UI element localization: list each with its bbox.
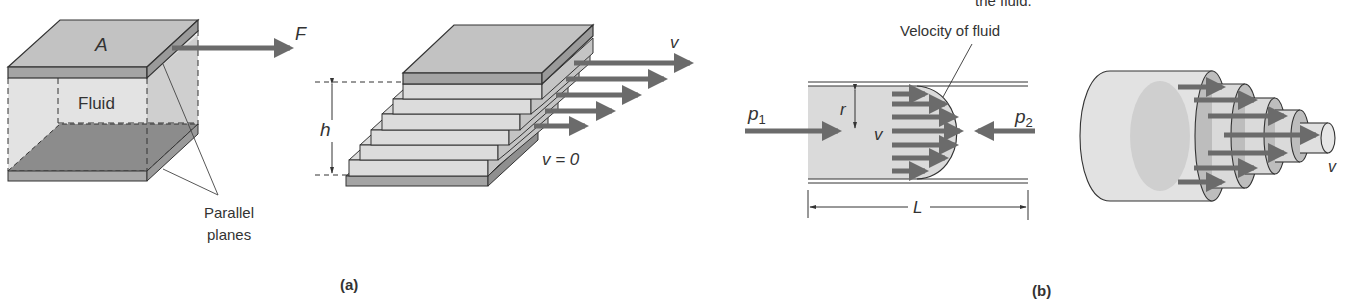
length-label: L [913, 198, 922, 217]
planes-label-line2: planes [207, 226, 251, 243]
planes-leader-bottom [163, 169, 218, 195]
pressure-in-label: p1 [747, 103, 766, 127]
top-velocity-label: v [670, 33, 680, 52]
height-label: h [320, 119, 331, 140]
panel-a-layers [315, 25, 690, 186]
cutoff-caption-text: the fluid. [975, 0, 1032, 9]
panel-b-pipe [745, 44, 1035, 220]
pressure-out-label: p2 [1014, 106, 1033, 130]
fluid-viscosity-diagram: the fluid. A Fluid F Parallel planes [0, 0, 1345, 299]
panel-b-caption: (b) [1032, 282, 1051, 299]
velocity-profile-label: Velocity of fluid [900, 22, 1000, 39]
panel-a-caption: (a) [340, 276, 358, 293]
area-label: A [94, 34, 108, 55]
planes-label-line1: Parallel [204, 204, 254, 221]
force-label: F [295, 24, 307, 44]
cylinder-velocity-label: v [1328, 158, 1337, 175]
bottom-velocity-label: v = 0 [542, 150, 580, 169]
fluid-label: Fluid [78, 94, 115, 113]
